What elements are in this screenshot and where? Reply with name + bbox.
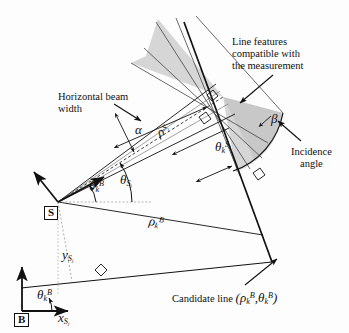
callout-incidence-l2: angle: [291, 158, 332, 170]
label-x-sj: xSj: [58, 311, 69, 326]
alpha-extent-arrow: [117, 117, 134, 152]
callout-beam-l1: Horizontal beam: [58, 91, 128, 103]
incidence-callout-arrow: [278, 121, 301, 141]
callout-candidate-text: Candidate line: [172, 293, 233, 304]
sub-S: Sj: [126, 179, 131, 188]
candidate-params: (ρkB,θkB): [236, 290, 278, 305]
label-rho-k-b: ρkB: [148, 214, 165, 231]
label-theta-k-b-upper: θkB: [89, 179, 104, 194]
callout-incidence-l1: Incidence: [291, 146, 332, 158]
callout-incidence-angle: Incidence angle: [291, 146, 332, 170]
callout-candidate-line: Candidate line (ρkB,θkB): [172, 291, 277, 306]
callout-beam-l2: width: [58, 103, 128, 115]
frame-label-sensor: S: [44, 206, 58, 220]
line-features-callout-arrow: [240, 75, 273, 103]
callout-line-features-l3: the measurement: [232, 60, 303, 72]
callout-line-features: Line features compatible with the measur…: [232, 36, 303, 72]
label-theta-sj: θSj: [120, 173, 132, 188]
sup-S: Sj: [225, 140, 230, 149]
label-alpha: α: [135, 123, 142, 138]
label-beta: β: [271, 112, 277, 127]
callout-line-features-l2: compatible with: [232, 48, 303, 60]
y-sj-helper-line: [58, 202, 72, 281]
label-y-sj: ySj: [62, 248, 73, 263]
sub-S: Sj: [64, 317, 69, 326]
figure-canvas: Line features compatible with the measur…: [0, 0, 349, 333]
theta-k-sj-arrow-2: [200, 166, 232, 180]
callout-line-features-l1: Line features: [232, 36, 303, 48]
sub-S: Sj: [68, 254, 73, 263]
label-theta-k-b-lower: θkB: [37, 288, 52, 303]
label-theta-k-sj: θkSj: [215, 140, 231, 155]
beam-edge-lower: [58, 114, 235, 202]
base-reference-line: [21, 262, 272, 288]
callout-horizontal-beam-width: Horizontal beam width: [58, 91, 128, 115]
frame-label-base: B: [14, 313, 29, 327]
